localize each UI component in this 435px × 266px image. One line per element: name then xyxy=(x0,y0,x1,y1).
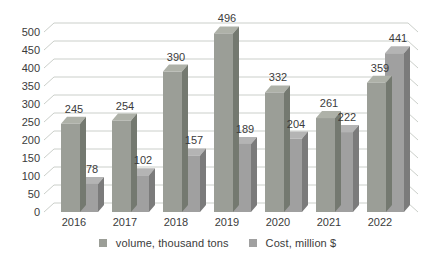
data-label: 78 xyxy=(86,163,98,175)
x-axis-category-label: 2017 xyxy=(113,216,137,228)
bar-cost-2022-side-face xyxy=(404,46,410,212)
bar-chart: 0501001502002503003504004505002457825410… xyxy=(0,0,435,266)
bar-cost-2021-side-face xyxy=(353,125,359,212)
gridline-depth-left xyxy=(44,167,54,176)
x-axis-category-label: 2020 xyxy=(266,216,290,228)
bar-volume-2022-front-face xyxy=(367,83,386,212)
y-axis-tick-label: 100 xyxy=(22,170,40,182)
gridline-depth-left xyxy=(44,131,54,140)
bar-cost-2020-side-face xyxy=(302,132,308,212)
data-label: 222 xyxy=(338,111,356,123)
legend-item-volume: volume, thousand tons xyxy=(99,237,229,249)
y-axis-tick-label: 500 xyxy=(22,26,40,38)
data-label: 189 xyxy=(236,123,254,135)
x-axis-category-label: 2018 xyxy=(164,216,188,228)
y-axis-tick-label: 0 xyxy=(34,206,40,218)
gridline-depth-left xyxy=(44,149,54,158)
y-axis-tick-label: 300 xyxy=(22,98,40,110)
chart-canvas: 0501001502002503003504004505002457825410… xyxy=(0,0,435,266)
data-label: 245 xyxy=(65,103,83,115)
chart-legend: volume, thousand tons Cost, million $ xyxy=(0,237,435,249)
data-label: 390 xyxy=(167,51,185,63)
data-label: 254 xyxy=(116,100,134,112)
gridline-depth-left xyxy=(44,113,54,122)
gridline-depth-left xyxy=(44,203,54,212)
bar-volume-2019-front-face xyxy=(214,33,233,212)
bar-volume-2016-front-face xyxy=(61,124,80,212)
x-axis-category-label: 2021 xyxy=(317,216,341,228)
bar-volume-2020-side-face xyxy=(284,85,290,212)
bar-cost-2017-side-face xyxy=(149,168,155,212)
bar-cost-2018-side-face xyxy=(200,148,206,212)
y-axis-tick-label: 350 xyxy=(22,80,40,92)
x-axis-category-label: 2019 xyxy=(215,216,239,228)
data-label: 157 xyxy=(185,134,203,146)
bar-volume-2017-front-face xyxy=(112,121,131,212)
x-axis-category-label: 2022 xyxy=(368,216,392,228)
data-label: 496 xyxy=(218,12,236,24)
y-axis-tick-label: 50 xyxy=(28,188,40,200)
gridline-depth-left xyxy=(44,95,54,104)
gridline-depth-left xyxy=(44,59,54,68)
data-label: 204 xyxy=(287,118,305,130)
legend-item-cost: Cost, million $ xyxy=(249,237,337,249)
data-label: 441 xyxy=(389,32,407,44)
bar-volume-2020-front-face xyxy=(265,92,284,212)
legend-label-volume: volume, thousand tons xyxy=(116,237,229,249)
y-axis-tick-label: 150 xyxy=(22,152,40,164)
data-label: 261 xyxy=(320,97,338,109)
gridline-depth-right xyxy=(408,23,418,32)
bar-volume-2021-front-face xyxy=(316,118,335,212)
legend-marker-cost xyxy=(249,239,257,247)
legend-marker-volume xyxy=(99,239,107,247)
y-axis-tick-label: 450 xyxy=(22,44,40,56)
data-label: 332 xyxy=(269,71,287,83)
gridline-depth-left xyxy=(44,185,54,194)
bar-cost-2019-side-face xyxy=(251,137,257,212)
bar-volume-2021-side-face xyxy=(335,111,341,212)
y-axis-tick-label: 400 xyxy=(22,62,40,74)
data-label: 102 xyxy=(134,154,152,166)
gridline-depth-left xyxy=(44,77,54,86)
bar-volume-2019-side-face xyxy=(233,26,239,212)
gridline-depth-left xyxy=(44,23,54,32)
data-label: 359 xyxy=(371,62,389,74)
x-axis-category-label: 2016 xyxy=(62,216,86,228)
y-axis-tick-label: 250 xyxy=(22,116,40,128)
legend-label-cost: Cost, million $ xyxy=(266,237,337,249)
bar-volume-2022-side-face xyxy=(386,76,392,212)
y-axis-tick-label: 200 xyxy=(22,134,40,146)
gridline-depth-left xyxy=(44,41,54,50)
bar-volume-2018-front-face xyxy=(163,72,182,212)
